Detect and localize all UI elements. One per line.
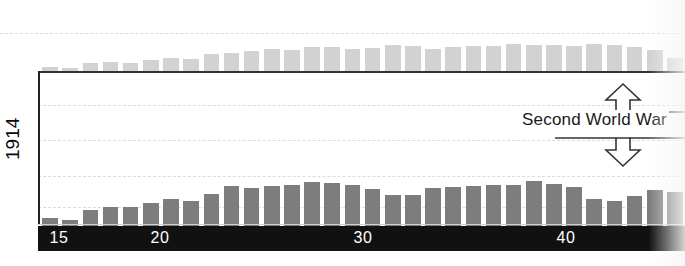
- gridline: [38, 176, 685, 177]
- bar-lower: [385, 195, 401, 226]
- bar-lower: [506, 185, 522, 226]
- bar-lower: [425, 188, 441, 226]
- bar-lower: [586, 199, 602, 226]
- annotation-label: Second World War: [520, 110, 669, 130]
- bar-upper: [405, 46, 421, 71]
- bar-upper: [425, 49, 441, 71]
- bar-lower: [486, 185, 502, 226]
- bar-lower: [304, 182, 320, 226]
- bar-lower: [546, 184, 562, 226]
- bar-lower: [345, 185, 361, 226]
- upper-baseline: [38, 71, 685, 73]
- year-tick-label: 20: [151, 229, 170, 247]
- bar-upper: [324, 47, 340, 71]
- bar-upper: [506, 44, 522, 71]
- x-axis-year-band: 15203040: [38, 226, 685, 251]
- bar-upper: [526, 45, 542, 71]
- bar-lower: [244, 188, 260, 226]
- band-top-rule: [38, 224, 685, 225]
- bar-lower: [405, 195, 421, 226]
- bar-upper: [123, 63, 139, 71]
- bar-upper: [103, 62, 119, 71]
- bar-lower: [466, 186, 482, 226]
- bar-lower: [324, 183, 340, 226]
- bar-upper: [445, 47, 461, 71]
- bar-upper: [607, 45, 623, 71]
- y-axis-spine: [38, 71, 40, 225]
- bar-upper: [143, 60, 159, 71]
- year-tick-label: 15: [50, 229, 69, 247]
- bar-lower: [284, 185, 300, 226]
- bar-lower: [566, 187, 582, 226]
- bar-upper: [466, 46, 482, 71]
- bar-upper: [204, 54, 220, 71]
- bar-upper: [385, 45, 401, 71]
- bar-lower: [667, 192, 683, 226]
- bar-upper: [586, 44, 602, 71]
- bar-upper: [627, 47, 643, 71]
- bar-lower: [445, 187, 461, 226]
- bar-upper: [546, 45, 562, 71]
- bar-lower: [647, 190, 663, 226]
- bar-lower: [264, 186, 280, 226]
- bar-upper: [667, 58, 683, 71]
- bar-lower: [143, 203, 159, 226]
- bar-upper: [224, 53, 240, 71]
- bar-upper: [163, 58, 179, 71]
- gridline: [0, 33, 685, 34]
- bar-upper: [345, 49, 361, 71]
- bar-upper: [486, 46, 502, 71]
- bar-lower: [627, 196, 643, 226]
- bar-lower: [183, 201, 199, 226]
- bar-lower: [607, 201, 623, 226]
- bar-upper: [264, 49, 280, 71]
- bar-upper: [183, 59, 199, 71]
- bar-upper: [647, 50, 663, 71]
- y-axis-year-label: 1914: [2, 118, 24, 160]
- year-tick-label: 30: [354, 229, 373, 247]
- bar-lower: [204, 194, 220, 226]
- bar-lower: [365, 189, 381, 226]
- bar-upper: [83, 63, 99, 71]
- plot-area: 15203040 1914 Second World War: [0, 0, 685, 266]
- bar-upper: [566, 46, 582, 71]
- bar-upper: [365, 48, 381, 71]
- chart-screenshot: 15203040 1914 Second World War: [0, 0, 685, 266]
- bar-upper: [244, 51, 260, 71]
- bar-upper: [304, 47, 320, 71]
- bar-lower: [224, 186, 240, 226]
- bar-lower: [526, 181, 542, 226]
- bar-upper: [284, 50, 300, 71]
- second-world-war-annotation: Second World War: [520, 82, 685, 168]
- bar-lower: [163, 199, 179, 226]
- year-tick-label: 40: [557, 229, 576, 247]
